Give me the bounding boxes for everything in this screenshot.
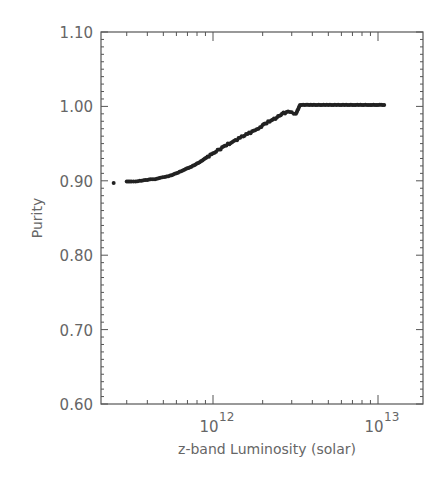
x-axis-tick-labels: 10121013 — [199, 410, 399, 436]
x-tick-label: 10 — [199, 418, 218, 436]
data-point — [151, 177, 155, 181]
y-tick-label: 0.90 — [60, 173, 93, 191]
y-tick-label: 0.80 — [60, 247, 93, 265]
x-axis-title: z-band Luminosity (solar) — [178, 441, 356, 457]
data-point — [128, 180, 132, 184]
data-point — [132, 179, 136, 183]
data-point — [381, 103, 385, 107]
x-tick-exponent: 12 — [219, 410, 234, 424]
y-tick-label: 0.60 — [60, 396, 93, 414]
x-axis-ticks — [127, 32, 378, 404]
y-tick-label: 1.10 — [60, 24, 93, 42]
data-point — [157, 176, 161, 180]
data-point — [112, 181, 116, 185]
y-axis-tick-labels: 0.600.700.800.901.001.10 — [60, 24, 93, 414]
data-point — [142, 178, 146, 182]
y-tick-label: 1.00 — [60, 98, 93, 116]
plot-frame — [101, 32, 423, 404]
x-tick-label: 10 — [364, 418, 383, 436]
data-point — [161, 175, 165, 179]
data-point — [288, 110, 292, 114]
data-point — [147, 177, 151, 181]
purity-vs-luminosity-chart: 0.600.700.800.901.001.10 10121013 Purity… — [0, 0, 444, 479]
data-point — [136, 179, 140, 183]
y-tick-label: 0.70 — [60, 322, 93, 340]
data-point — [273, 117, 277, 121]
y-axis-ticks — [101, 32, 423, 404]
x-tick-exponent: 13 — [384, 410, 399, 424]
data-points — [112, 103, 387, 185]
y-axis-title: Purity — [29, 198, 45, 239]
